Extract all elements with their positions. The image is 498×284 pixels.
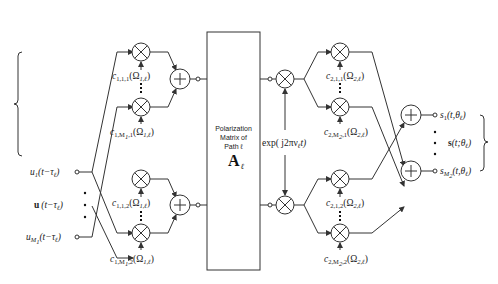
ellipsis-dot (84, 216, 86, 218)
coeff-c2M21-label: c2,M2,1(Ω2,ℓ) (324, 127, 368, 140)
ellipsis-dot (434, 153, 436, 155)
rx-fanout (304, 79, 331, 107)
coeff-c1M12-label: c1,M1,2(Ω1,ℓ) (110, 254, 154, 267)
coeff-c211-label: c2,1,1(Ω2,ℓ) (326, 71, 364, 82)
input-u1-label: u1(t−τℓ) (30, 167, 60, 178)
coeff-c212-label: c2,1,2(Ω2,ℓ) (326, 198, 364, 209)
rx-adder-bot (401, 161, 421, 181)
coeff-c111-label: c1,1,1(Ω1,ℓ) (112, 71, 150, 82)
input-brace (14, 52, 22, 156)
tx-multiplier-bot-M1 (132, 224, 150, 242)
tx-multiplier-bot-1 (132, 170, 150, 188)
box-line2: Matrix of (220, 134, 247, 141)
doppler-multiplier-bot (276, 196, 294, 214)
sum-line (150, 179, 176, 197)
ellipsis-dot (84, 192, 86, 194)
ellipsis-dot (434, 131, 436, 133)
doppler-label: exp( j2πνℓt) (262, 138, 306, 149)
polarization-matrix-box (207, 32, 260, 270)
ellipsis-dot (434, 142, 436, 144)
input-fanout-lines (79, 52, 133, 258)
rx-adder-top (401, 105, 421, 125)
input-vector-label: u(t−τℓ) (34, 200, 63, 211)
input-port-1 (75, 170, 79, 174)
rx-fanout (304, 205, 331, 233)
output-s1-label: s1(t,θℓ) (440, 110, 466, 121)
ellipsis-dot (84, 204, 86, 206)
signal-flow-diagram: u1(t−τℓ) u(t−τℓ) uM1(t−τℓ) c1,1,1(Ω1,ℓ) … (0, 0, 498, 284)
output-brace (480, 115, 488, 171)
tx-adder-top (170, 69, 190, 89)
doppler-multiplier-top (276, 70, 294, 88)
tx-multiplier-top-M1 (132, 98, 150, 116)
rx-multiplier-bot-1 (331, 170, 349, 188)
tx-adder-bot (170, 195, 190, 215)
rx-sum-line (349, 52, 404, 166)
output-port-M2 (433, 169, 437, 173)
coeff-c1M11-label: c1,M1,1(Ω1,ℓ) (110, 127, 154, 140)
input-port-M1 (75, 235, 79, 239)
rx-multiplier-top-M2 (331, 98, 349, 116)
rx-multiplier-bot-M2 (331, 224, 349, 242)
output-sM2-label: sM2(t,θℓ) (440, 166, 471, 179)
sum-line (150, 89, 176, 107)
port (196, 203, 200, 207)
output-vector-label: s(t;θℓ) (448, 138, 471, 149)
box-line3: Path ℓ (224, 143, 243, 150)
rx-multiplier-top-1 (331, 43, 349, 61)
box-line1: Polarization (215, 125, 252, 132)
input-uM1-label: uM1(t−τℓ) (26, 232, 61, 245)
rx-sum-line (349, 107, 404, 186)
sum-line (150, 52, 176, 70)
coeff-c2M22-label: c2,M2,2(Ω2,ℓ) (324, 254, 368, 267)
sum-line (150, 215, 176, 233)
tx-multiplier-top-1 (132, 43, 150, 61)
output-port-1 (433, 113, 437, 117)
port (268, 77, 272, 81)
coeff-c112-label: c1,1,2(Ω1,ℓ) (112, 198, 150, 209)
port (268, 203, 272, 207)
port (196, 77, 200, 81)
rx-sum-line (349, 207, 404, 233)
